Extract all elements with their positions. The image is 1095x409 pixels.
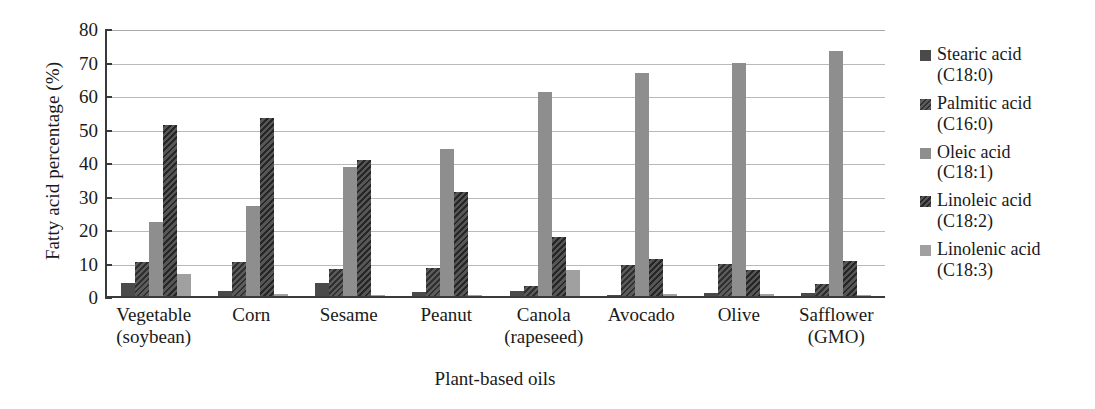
legend-swatch-icon — [920, 99, 931, 110]
bar — [510, 291, 524, 296]
y-axis-tick-label: 60 — [48, 86, 98, 108]
bar — [857, 295, 871, 296]
x-axis-tick-label: Corn — [203, 304, 301, 349]
y-axis-tick — [105, 130, 112, 132]
y-axis-tick-label: 10 — [48, 253, 98, 275]
y-axis-tick — [105, 63, 112, 65]
y-axis-tick-label: 40 — [48, 153, 98, 175]
y-axis-tick — [105, 264, 112, 266]
y-axis-tick-label: 30 — [48, 186, 98, 208]
bar — [635, 73, 649, 296]
bar-group — [107, 30, 204, 296]
legend-label: Oleic acid(C18:1) — [937, 142, 1010, 184]
bar-group — [496, 30, 593, 296]
bar-group — [204, 30, 301, 296]
legend-item[interactable]: Oleic acid(C18:1) — [920, 142, 1095, 184]
bar — [607, 295, 621, 296]
bar-group — [302, 30, 399, 296]
bar — [552, 237, 566, 296]
legend-item[interactable]: Linolenic acid(C18:3) — [920, 239, 1095, 281]
bar-group — [788, 30, 885, 296]
y-axis-tick-label: 0 — [48, 287, 98, 309]
bar — [829, 51, 843, 296]
y-axis-tick — [105, 163, 112, 165]
bar — [732, 63, 746, 296]
bar — [468, 295, 482, 296]
y-axis-tick — [105, 29, 112, 31]
bar — [329, 269, 343, 296]
bar — [426, 268, 440, 296]
legend-label: Palmitic acid(C16:0) — [937, 93, 1031, 135]
legend-item[interactable]: Stearic acid(C18:0) — [920, 44, 1095, 86]
y-axis-tick — [105, 96, 112, 98]
y-axis-tick — [105, 230, 112, 232]
bar — [412, 292, 426, 296]
y-axis-tick-labels: 80706050403020100 — [48, 30, 98, 298]
fatty-acid-bar-chart: Fatty acid percentage (%) 80706050403020… — [0, 0, 1095, 409]
bar — [524, 286, 538, 296]
bar — [621, 265, 635, 296]
y-axis-tick-label: 20 — [48, 220, 98, 242]
bar — [371, 295, 385, 296]
x-axis-tick-label: Sesame — [300, 304, 398, 349]
bar — [663, 294, 677, 296]
x-axis-tick-label: Olive — [690, 304, 788, 349]
bar-groups — [107, 30, 885, 296]
legend-label: Linoleic acid(C18:2) — [937, 190, 1031, 232]
bar — [135, 262, 149, 296]
bar — [357, 160, 371, 296]
bar — [718, 264, 732, 296]
bar — [566, 270, 580, 296]
bar-group — [399, 30, 496, 296]
legend-label: Stearic acid(C18:0) — [937, 44, 1021, 86]
y-axis-tick-label: 50 — [48, 119, 98, 141]
bar — [843, 261, 857, 296]
bar — [274, 294, 288, 296]
bar — [246, 206, 260, 296]
legend-item[interactable]: Palmitic acid(C16:0) — [920, 93, 1095, 135]
bar — [260, 118, 274, 296]
x-axis-tick-label: Peanut — [398, 304, 496, 349]
bar — [121, 283, 135, 296]
bar — [232, 262, 246, 296]
bar — [704, 293, 718, 296]
y-axis-tick-label: 70 — [48, 52, 98, 74]
bar — [315, 283, 329, 296]
x-axis-tick-label: Safflower(GMO) — [788, 304, 886, 349]
legend-swatch-icon — [920, 245, 931, 256]
bar — [801, 293, 815, 296]
legend-swatch-icon — [920, 50, 931, 61]
x-axis-tick-label: Avocado — [593, 304, 691, 349]
y-axis-tick — [105, 197, 112, 199]
bar-group — [691, 30, 788, 296]
bar-group — [593, 30, 690, 296]
x-axis-tick-labels: Vegetable(soybean)CornSesamePeanutCanola… — [105, 304, 885, 349]
bar — [149, 222, 163, 296]
bar — [746, 270, 760, 296]
legend-label: Linolenic acid(C18:3) — [937, 239, 1040, 281]
bar — [343, 167, 357, 296]
x-axis-tick-label: Vegetable(soybean) — [105, 304, 203, 349]
y-axis-tick-label: 80 — [48, 19, 98, 41]
x-axis-title: Plant-based oils — [105, 368, 885, 390]
bar — [177, 274, 191, 296]
legend-swatch-icon — [920, 196, 931, 207]
x-axis-tick-label: Canola(rapeseed) — [495, 304, 593, 349]
bar — [163, 125, 177, 296]
y-axis-tick — [105, 297, 112, 299]
bar — [760, 294, 774, 296]
bar — [454, 192, 468, 296]
legend: Stearic acid(C18:0)Palmitic acid(C16:0)O… — [920, 44, 1095, 288]
legend-swatch-icon — [920, 148, 931, 159]
bar — [538, 92, 552, 296]
legend-item[interactable]: Linoleic acid(C18:2) — [920, 190, 1095, 232]
bar — [815, 284, 829, 296]
plot-area — [105, 30, 885, 298]
bar — [218, 291, 232, 296]
bar — [649, 259, 663, 296]
bar — [440, 149, 454, 296]
